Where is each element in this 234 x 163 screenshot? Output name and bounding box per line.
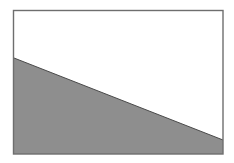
- diagram-figure: [0, 0, 234, 163]
